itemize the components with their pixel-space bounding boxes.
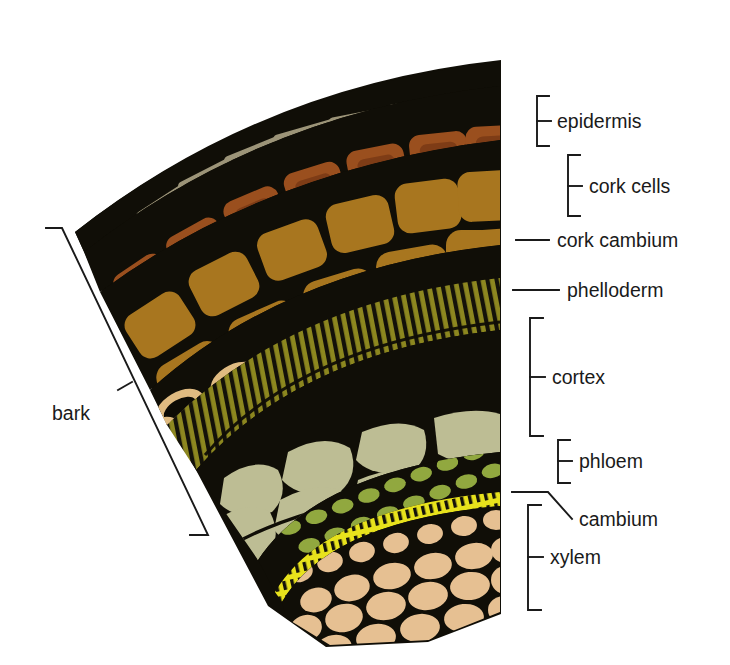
label-epidermis: epidermis — [557, 110, 642, 132]
figure-canvas: bark epidermis cork cells cork cambium p… — [0, 0, 730, 665]
label-cambium: cambium — [579, 508, 658, 530]
bark-cross-section-diagram: bark epidermis cork cells cork cambium p… — [0, 0, 730, 665]
tissue-wedge — [60, 50, 566, 664]
label-cork-cambium: cork cambium — [557, 229, 678, 251]
annotation-cork-cambium: cork cambium — [516, 229, 678, 251]
annotation-phelloderm: phelloderm — [513, 279, 663, 301]
annotation-cork-cells: cork cells — [568, 155, 671, 216]
label-phloem: phloem — [579, 450, 643, 472]
annotation-phloem: phloem — [558, 440, 643, 483]
label-xylem: xylem — [550, 546, 601, 568]
annotation-cambium: cambium — [512, 492, 658, 530]
cambium-leader — [512, 492, 572, 519]
label-phelloderm: phelloderm — [567, 279, 663, 301]
label-cork-cells: cork cells — [589, 175, 671, 197]
annotation-cortex: cortex — [530, 318, 605, 436]
label-bark: bark — [52, 402, 90, 424]
bark-bracket-tick — [118, 382, 132, 390]
annotation-epidermis: epidermis — [537, 96, 642, 146]
label-cortex: cortex — [552, 366, 605, 388]
